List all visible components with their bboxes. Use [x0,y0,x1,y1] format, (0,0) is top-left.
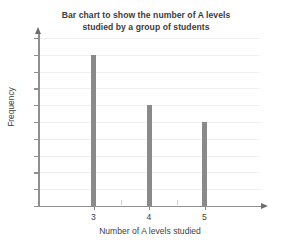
gridline [38,88,260,89]
gridline [38,38,260,39]
y-axis-tick [34,55,39,56]
y-axis-line [38,33,40,207]
bar-chart: Bar chart to show the number of A levels… [0,0,289,246]
chart-title: Bar chart to show the number of A levels… [36,10,256,33]
x-axis-arrow-icon [261,203,268,209]
bar [147,105,152,206]
x-axis-tick-label: 4 [137,212,161,222]
y-axis-arrow-icon [35,27,41,34]
x-axis-title: Number of A levels studied [38,226,262,236]
x-axis-tick [94,205,95,210]
gridline [38,72,260,73]
y-axis-tick [34,105,39,106]
y-axis-tick [34,172,39,173]
chart-title-line-2: studied by a group of students [36,22,256,34]
y-axis-tick [34,38,39,39]
x-axis-tick-label: 5 [193,212,217,222]
y-axis-tick [34,156,39,157]
x-axis-tick-label: 3 [82,212,106,222]
x-axis-tick [205,205,206,210]
bar [202,122,207,206]
chart-title-line-1: Bar chart to show the number of A levels [36,10,256,22]
y-axis-tick [34,88,39,89]
y-axis-tick [34,139,39,140]
x-axis-minor-tick [121,200,122,205]
gridline [38,55,260,56]
y-axis-tick [34,206,39,207]
y-axis-tick [34,122,39,123]
y-axis-title: Frequency [6,67,16,147]
x-axis-minor-tick [177,200,178,205]
y-axis-tick [34,189,39,190]
bar [91,55,96,206]
plot-area [38,38,260,206]
x-axis-tick [149,205,150,210]
y-axis-tick [34,72,39,73]
